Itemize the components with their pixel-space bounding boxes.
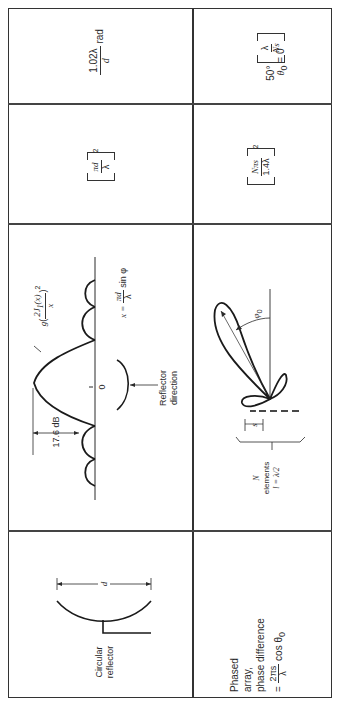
sidelobe-label: 17.6 dB [50,410,62,454]
s-symbol: s [249,423,259,427]
phased-array-label: Phased array, phase difference = 2πsλ co… [228,602,298,692]
circular-reflector-label: Circular reflector [94,640,118,684]
dimension-d-label: d [98,578,110,590]
reflector-direction-line1: Reflector [158,363,169,413]
axis-den: λ [124,293,133,302]
spacing-label: s [248,420,260,430]
reflector-direction-line2: direction [169,363,180,413]
eq-suffix: cos θ [273,637,284,661]
axis-prefix: x = [118,306,128,318]
sinc-function-label: g(2J1(x)x)2 [33,271,51,341]
sinc-arg: (x) [32,295,42,305]
circular-reflector-line1: Circular [94,640,105,684]
phased-line1: Phased [228,602,241,692]
phased-line3: phase difference [254,602,267,692]
phi-sub: 0 [255,309,264,313]
sinc-num: 2J [32,308,42,317]
eq-den: λ [279,669,288,678]
sinc-pattern-diagram [0,0,340,704]
circular-reflector-line2: reflector [105,640,116,684]
eq-suffix-sub: 0 [277,632,287,637]
axis-label: x = πdλ sin φ [114,258,132,328]
phi0-label: φ0 [250,306,262,322]
phi-symbol: φ [251,314,261,319]
axis-suffix: sin φ [118,268,128,288]
sinc-den: x [46,302,55,310]
eq-prefix: = [273,686,284,692]
reflector-direction-label: Reflector direction [158,363,182,413]
elements-n: N [252,455,262,501]
elements-length: l = λ/2 [272,455,282,501]
origin-label: 0 [96,380,108,394]
phased-line2: array, [241,602,254,692]
sinc-exp: 2 [34,286,41,290]
g-symbol: g [38,322,48,327]
elements-word: elements [262,455,272,501]
d-symbol: d [99,582,109,587]
phase-difference-equation: = 2πsλ cos θ0 [269,602,289,692]
sinc-sub: 1 [36,305,45,309]
elements-label: N elements l = λ/2 [252,455,284,501]
